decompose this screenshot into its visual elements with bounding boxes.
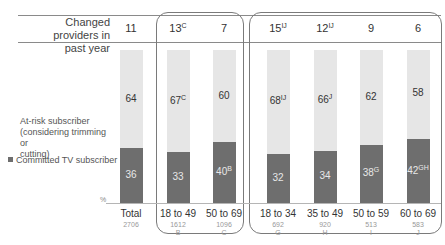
- bar-value-label: 36: [110, 169, 153, 180]
- sample-size: 692: [253, 220, 303, 229]
- bar-value-label: 68IJ: [257, 95, 300, 106]
- bar-total: 64 36: [120, 50, 143, 203]
- bar-value-label: 58: [397, 87, 440, 98]
- legend-swatch-committed: [8, 157, 13, 162]
- bar-segment-at-risk: 66J: [314, 50, 337, 151]
- bar-value-label: 34: [304, 170, 347, 181]
- bar-18-34: 68IJ 32: [267, 50, 290, 203]
- column-letter: G: [253, 229, 303, 237]
- header-value-35-49: 12IJ: [305, 22, 345, 34]
- bar-segment-committed: 38G: [360, 145, 383, 203]
- bar-segment-committed: 36: [120, 148, 143, 203]
- bar-segment-committed: 40B: [213, 142, 236, 203]
- bar-value-label: 42GH: [397, 165, 440, 176]
- bar-35-49: 66J 34: [314, 50, 337, 203]
- legend-at-risk-line1: At-risk subscriber: [20, 116, 115, 127]
- bar-segment-committed: 42GH: [407, 139, 430, 203]
- bar-segment-at-risk: 60: [213, 50, 236, 142]
- header-row-label: Changed providers in past year: [18, 16, 110, 55]
- bar-segment-committed: 34: [314, 151, 337, 203]
- header-value-60-69: 6: [398, 22, 438, 34]
- bar-segment-at-risk: 67C: [167, 50, 190, 152]
- bar-value-label: 40B: [203, 166, 246, 177]
- column-letter: H: [300, 229, 350, 237]
- category-label: 18 to 34: [253, 208, 303, 220]
- legend-at-risk-line2: (considering trimming or: [20, 127, 115, 149]
- header-value-18-49: 13C: [158, 22, 198, 34]
- sample-size: 1096: [199, 220, 249, 229]
- bar-value-label: 60: [203, 90, 246, 101]
- bar-value-label: 38G: [350, 167, 393, 178]
- bar-segment-committed: 32: [267, 154, 290, 203]
- legend-committed-label: Committed TV subscriber: [16, 155, 117, 165]
- category-50-69: 50 to 69 1096 C: [199, 208, 249, 237]
- header-value-18-34: 15IJ: [258, 22, 298, 34]
- column-letter: B: [153, 229, 203, 237]
- legend-committed: Committed TV subscriber: [8, 155, 118, 166]
- bar-50-59: 62 38G: [360, 50, 383, 203]
- category-label: Total: [106, 208, 156, 220]
- bar-50-69: 60 40B: [213, 50, 236, 203]
- bar-segment-committed: 33: [167, 152, 190, 203]
- bar-segment-at-risk: 64: [120, 50, 143, 148]
- bar-value-label: 32: [257, 172, 300, 183]
- sample-size: 513: [346, 220, 396, 229]
- category-18-49: 18 to 49 1612 B: [153, 208, 203, 237]
- bar-value-label: 67C: [157, 95, 200, 106]
- sample-size: 1612: [153, 220, 203, 229]
- sample-size: 583: [393, 220, 443, 229]
- sample-size: 920: [300, 220, 350, 229]
- header-value-50-59: 9: [351, 22, 391, 34]
- column-letter: I: [346, 229, 396, 237]
- bar-value-label: 64: [110, 93, 153, 104]
- category-18-34: 18 to 34 692 G: [253, 208, 303, 237]
- category-label: 60 to 69: [393, 208, 443, 220]
- legend-at-risk: At-risk subscriber (considering trimming…: [20, 116, 115, 160]
- header-label-line2: past year: [18, 42, 110, 55]
- column-letter: J: [393, 229, 443, 237]
- category-50-59: 50 to 59 513 I: [346, 208, 396, 237]
- y-axis-unit: %: [100, 196, 106, 203]
- bar-segment-at-risk: 58: [407, 50, 430, 139]
- bar-value-label: 62: [350, 91, 393, 102]
- bar-segment-at-risk: 62: [360, 50, 383, 145]
- sample-size: 2706: [106, 220, 156, 229]
- category-label: 35 to 49: [300, 208, 350, 220]
- header-value-total: 11: [111, 22, 151, 34]
- bar-60-69: 58 42GH: [407, 50, 430, 203]
- bar-value-label: 33: [157, 171, 200, 182]
- bar-18-49: 67C 33: [167, 50, 190, 203]
- category-label: 18 to 49: [153, 208, 203, 220]
- category-total: Total 2706: [106, 208, 156, 229]
- category-35-49: 35 to 49 920 H: [300, 208, 350, 237]
- header-value-50-69: 7: [204, 22, 244, 34]
- category-label: 50 to 59: [346, 208, 396, 220]
- header-label-line1: Changed providers in: [18, 16, 110, 42]
- category-60-69: 60 to 69 583 J: [393, 208, 443, 237]
- bar-value-label: 66J: [304, 94, 347, 105]
- x-axis-line: [106, 203, 441, 204]
- column-letter: C: [199, 229, 249, 237]
- category-label: 50 to 69: [199, 208, 249, 220]
- bar-segment-at-risk: 68IJ: [267, 50, 290, 154]
